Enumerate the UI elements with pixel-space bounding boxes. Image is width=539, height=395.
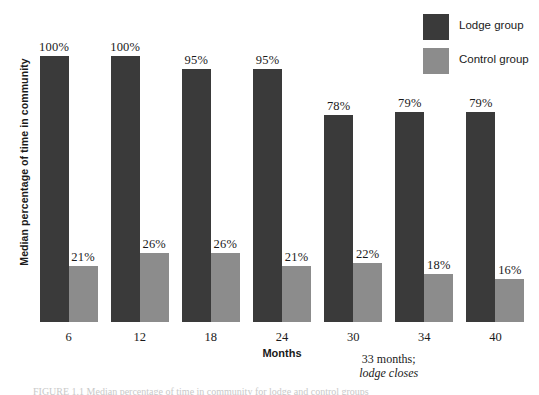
legend-item-control-group: Control group xyxy=(423,48,539,82)
bar-lodge-24mo xyxy=(253,69,282,322)
bar-control-24mo xyxy=(282,266,311,322)
y-axis-label-area: Median percentage of time in community xyxy=(0,0,30,330)
lodge-closes-annotation: 33 months;lodge closes xyxy=(319,352,459,380)
bar-lodge-12mo xyxy=(111,56,140,322)
x-tick-label-18: 18 xyxy=(182,330,240,345)
bar-control-40mo xyxy=(495,279,524,322)
bar-group: 100%21% xyxy=(40,10,98,322)
x-tick-label-34: 34 xyxy=(395,330,453,345)
bar-value-label: 79% xyxy=(387,96,432,111)
x-axis-title: Months xyxy=(233,347,331,359)
bar-value-label: 18% xyxy=(416,258,461,273)
figure-caption: FIGURE 1.1 Median percentage of time in … xyxy=(33,386,513,395)
bar-lodge-30mo xyxy=(324,115,353,322)
x-tick-label-30: 30 xyxy=(324,330,382,345)
bar-group: 78%22% xyxy=(324,10,382,322)
bar-value-label: 21% xyxy=(61,250,106,265)
bar-control-6mo xyxy=(69,266,98,322)
legend-item-lodge-group: Lodge group xyxy=(423,14,539,48)
bar-control-34mo xyxy=(424,274,453,322)
x-tick-label-40: 40 xyxy=(466,330,524,345)
bar-value-label: 100% xyxy=(32,40,77,55)
x-tick-label-24: 24 xyxy=(253,330,311,345)
bar-value-label: 78% xyxy=(316,99,361,114)
y-axis-label: Median percentage of time in community xyxy=(18,42,30,282)
bar-value-label: 100% xyxy=(103,40,148,55)
bar-value-label: 26% xyxy=(203,237,248,252)
legend-swatch-lodge-group xyxy=(423,14,449,40)
annotation-line-1: 33 months; xyxy=(319,352,459,366)
bar-value-label: 95% xyxy=(174,53,219,68)
bar-control-30mo xyxy=(353,263,382,322)
bar-lodge-34mo xyxy=(395,112,424,322)
bar-value-label: 26% xyxy=(132,237,177,252)
x-tick-label-6: 6 xyxy=(40,330,98,345)
legend-label-control-group: Control group xyxy=(459,53,529,65)
bar-value-label: 16% xyxy=(487,263,532,278)
legend-label-lodge-group: Lodge group xyxy=(459,19,524,31)
bar-chart: Median percentage of time in community 1… xyxy=(0,0,539,395)
x-tick-label-12: 12 xyxy=(111,330,169,345)
chart-legend: Lodge group Control group xyxy=(423,14,539,82)
bar-group: 100%26% xyxy=(111,10,169,322)
bar-control-18mo xyxy=(211,253,240,322)
bar-group: 95%26% xyxy=(182,10,240,322)
bar-value-label: 21% xyxy=(274,250,319,265)
bar-value-label: 95% xyxy=(245,53,290,68)
legend-swatch-control-group xyxy=(423,48,449,74)
bar-value-label: 22% xyxy=(345,247,390,262)
bar-group: 95%21% xyxy=(253,10,311,322)
bar-lodge-18mo xyxy=(182,69,211,322)
bar-lodge-6mo xyxy=(40,56,69,322)
bar-lodge-40mo xyxy=(466,112,495,322)
bar-value-label: 79% xyxy=(458,96,503,111)
annotation-line-2: lodge closes xyxy=(319,366,459,380)
bar-control-12mo xyxy=(140,253,169,322)
